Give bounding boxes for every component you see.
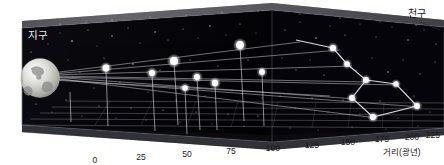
axis-tick-225: 225 <box>426 130 440 140</box>
axis-tick-100: 100 <box>266 143 280 153</box>
celestial-sphere-label: 천구 <box>408 5 426 20</box>
axis-tick-200: 200 <box>405 132 419 142</box>
axis-tick-0: 0 <box>93 155 98 165</box>
earth-globe <box>21 59 60 98</box>
box-back-wall <box>272 10 444 142</box>
axis-tick-50: 50 <box>182 149 191 159</box>
axis-tick-25: 25 <box>136 152 145 162</box>
axis-tick-150: 150 <box>341 137 355 147</box>
axis-tick-175: 175 <box>375 134 389 144</box>
axis-tick-125: 125 <box>305 140 319 150</box>
figure-root: 지구 천구 거리(광년) 0255075100125150175200225 <box>0 0 444 165</box>
earth-label: 지구 <box>28 27 48 42</box>
axis-title-label: 거리(광년) <box>383 145 421 157</box>
axis-tick-75: 75 <box>226 146 235 156</box>
